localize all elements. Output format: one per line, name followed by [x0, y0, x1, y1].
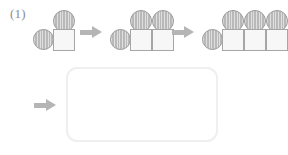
pattern-step-1	[33, 10, 78, 55]
arrow-step2-to-step3	[172, 26, 194, 39]
arrow-head	[46, 99, 56, 111]
square-1	[53, 29, 75, 51]
arrow-head	[184, 26, 194, 38]
worksheet-canvas: (1)	[0, 0, 288, 155]
problem-number-label: (1)	[10, 7, 26, 20]
answer-box[interactable]	[66, 67, 218, 142]
square-1	[130, 29, 152, 51]
square-2	[152, 29, 174, 51]
pattern-step-2	[110, 10, 176, 55]
arrow-to-answer	[34, 99, 56, 112]
square-2	[244, 29, 266, 51]
circle-side	[110, 29, 131, 50]
square-3	[266, 29, 288, 51]
circle-side	[202, 29, 223, 50]
arrow-head	[92, 26, 102, 38]
circle-side	[33, 29, 54, 50]
square-1	[222, 29, 244, 51]
pattern-step-3	[202, 10, 288, 55]
arrow-step1-to-step2	[80, 26, 102, 39]
